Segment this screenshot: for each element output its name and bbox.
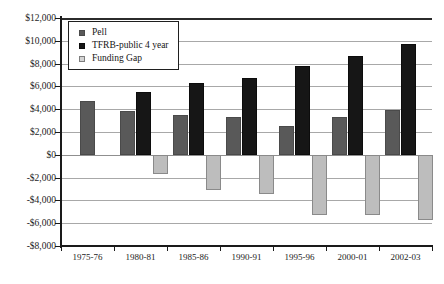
y-axis-tick-label: -$6,000 xyxy=(2,218,56,228)
x-axis-line xyxy=(60,245,433,247)
x-axis-tick-mark xyxy=(167,246,168,251)
bar-gap xyxy=(418,155,433,221)
y-axis-tick-mark xyxy=(55,18,60,19)
x-axis-tick-mark xyxy=(273,246,274,251)
bar-tfrb xyxy=(242,78,257,155)
y-axis-tick-mark xyxy=(55,155,60,156)
bar-gap xyxy=(206,155,221,190)
bar-chart: $12,000$10,000$8,000$6,000$4,000$2,000$0… xyxy=(0,0,444,284)
y-axis-tick-label: $12,000 xyxy=(2,13,56,23)
legend-label-funding-gap: Funding Gap xyxy=(92,53,142,64)
y-axis-tick-mark xyxy=(55,64,60,65)
bar-tfrb xyxy=(189,83,204,155)
x-axis-tick-mark xyxy=(379,246,380,251)
legend-item-tfrb: TFRB-public 4 year xyxy=(75,39,169,52)
y-axis-tick-label: -$2,000 xyxy=(2,173,56,183)
y-axis-tick-mark xyxy=(55,178,60,179)
legend-swatch-tfrb xyxy=(79,43,85,49)
legend-label-pell: Pell xyxy=(92,27,107,38)
bar-gap xyxy=(365,155,380,215)
y-axis-line xyxy=(60,16,62,248)
bar-pell xyxy=(80,101,95,155)
x-axis-tick-mark xyxy=(220,246,221,251)
bar-tfrb xyxy=(348,56,363,155)
x-axis-tick-mark xyxy=(326,246,327,251)
bar-pell xyxy=(385,110,400,155)
y-axis-tick-label: $0 xyxy=(2,150,56,160)
y-axis-tick-label: $6,000 xyxy=(2,81,56,91)
x-axis-tick-label: 2002-03 xyxy=(376,252,436,262)
x-axis-tick-mark xyxy=(114,246,115,251)
legend-item-funding-gap: Funding Gap xyxy=(75,52,169,65)
bar-pell xyxy=(120,111,135,155)
x-axis-tick-label: 2000-01 xyxy=(323,252,383,262)
y-axis-tick-label: -$4,000 xyxy=(2,195,56,205)
y-axis-tick-mark xyxy=(55,246,60,247)
bar-pell xyxy=(332,117,347,155)
y-axis-tick-mark xyxy=(55,200,60,201)
bar-tfrb xyxy=(295,66,310,155)
y-axis-tick-mark xyxy=(55,109,60,110)
legend-swatch-pell xyxy=(79,30,85,36)
x-axis-tick-label: 1980-81 xyxy=(111,252,171,262)
y-axis-labels: $12,000$10,000$8,000$6,000$4,000$2,000$0… xyxy=(0,0,56,284)
y-axis-tick-mark xyxy=(55,41,60,42)
x-axis-tick-label: 1995-96 xyxy=(270,252,330,262)
bar-gap xyxy=(312,155,327,215)
gridline xyxy=(61,223,432,224)
legend-label-tfrb: TFRB-public 4 year xyxy=(92,40,169,51)
y-axis-tick-label: $8,000 xyxy=(2,59,56,69)
x-axis-tick-label: 1985-86 xyxy=(164,252,224,262)
gridline xyxy=(61,18,432,20)
bar-gap xyxy=(153,155,168,174)
y-axis-tick-label: -$8,000 xyxy=(2,241,56,251)
bar-gap xyxy=(259,155,274,194)
bar-pell xyxy=(226,117,241,155)
y-axis-tick-mark xyxy=(55,132,60,133)
bar-pell xyxy=(279,126,294,155)
x-axis-tick-label: 1990-91 xyxy=(217,252,277,262)
bar-pell xyxy=(173,115,188,154)
x-axis-tick-mark xyxy=(61,246,62,251)
y-axis-tick-label: $10,000 xyxy=(2,36,56,46)
bar-tfrb xyxy=(136,92,151,155)
y-axis-tick-mark xyxy=(55,223,60,224)
y-axis-tick-mark xyxy=(55,86,60,87)
y-axis-tick-label: $2,000 xyxy=(2,127,56,137)
x-axis-tick-mark xyxy=(432,246,433,251)
chart-legend: Pell TFRB-public 4 year Funding Gap xyxy=(68,21,179,70)
legend-swatch-funding-gap xyxy=(79,56,85,62)
legend-item-pell: Pell xyxy=(75,26,169,39)
y-axis-tick-label: $4,000 xyxy=(2,104,56,114)
bar-tfrb xyxy=(401,44,416,155)
x-axis-tick-label: 1975-76 xyxy=(58,252,118,262)
